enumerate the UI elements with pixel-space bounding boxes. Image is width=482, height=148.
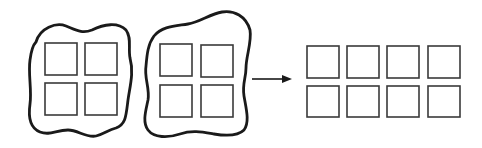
square — [428, 46, 460, 78]
square — [347, 86, 379, 117]
square — [85, 43, 117, 75]
diagram-canvas — [0, 0, 482, 148]
square — [387, 86, 419, 117]
diagram-svg — [0, 0, 482, 148]
left-blob-outline — [29, 25, 131, 137]
square — [160, 44, 192, 76]
result-grid — [307, 46, 460, 117]
square — [428, 86, 460, 117]
square — [307, 46, 339, 78]
square — [160, 85, 192, 117]
square — [45, 43, 77, 75]
square — [85, 83, 117, 115]
left-blob-squares — [45, 43, 117, 115]
square — [307, 86, 339, 117]
square — [45, 83, 77, 115]
square — [387, 46, 419, 78]
square — [201, 85, 233, 117]
square — [201, 45, 233, 77]
arrow-right-icon — [252, 75, 292, 83]
middle-blob-squares — [160, 44, 233, 117]
square — [347, 46, 379, 78]
